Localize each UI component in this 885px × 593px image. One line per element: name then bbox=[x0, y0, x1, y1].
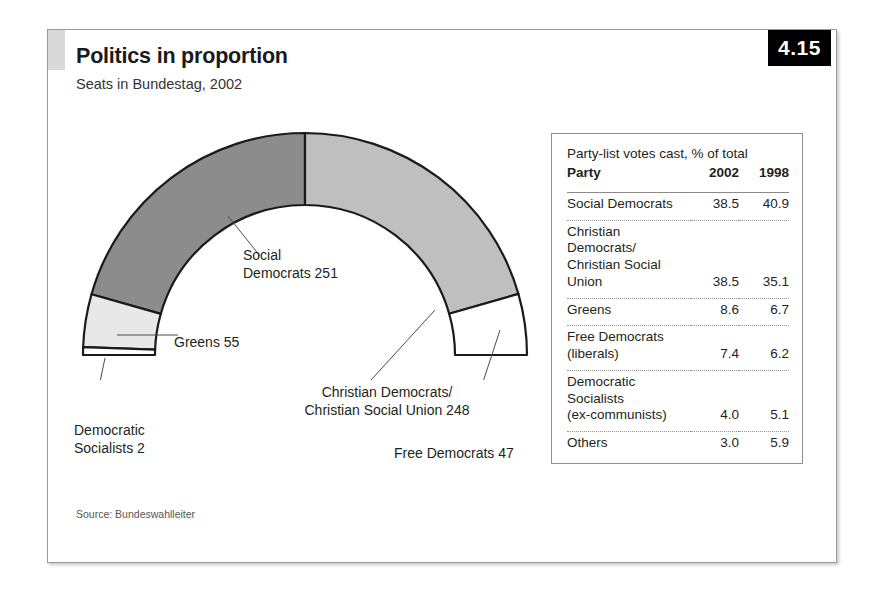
cell-2002: 3.0 bbox=[691, 432, 739, 455]
cell-1998: 35.1 bbox=[739, 220, 789, 293]
cell-2002: 38.5 bbox=[691, 220, 739, 293]
slice-social-democrats bbox=[92, 133, 305, 314]
cell-party: Greens bbox=[567, 298, 691, 321]
leader-line-cdu bbox=[371, 310, 435, 380]
cell-party: Free Democrats (liberals) bbox=[567, 326, 691, 366]
cell-party: Social Democrats bbox=[567, 193, 691, 216]
page-subtitle: Seats in Bundestag, 2002 bbox=[76, 76, 242, 92]
figure-number-badge: 4.15 bbox=[768, 30, 831, 66]
table-row: Greens 8.6 6.7 bbox=[567, 298, 789, 321]
leader-line-pds bbox=[92, 358, 105, 380]
cell-2002: 4.0 bbox=[691, 370, 739, 427]
cell-party: Christian Democrats/ Christian Social Un… bbox=[567, 220, 691, 293]
col-1998: 1998 bbox=[739, 165, 789, 185]
table-header-row: Party 2002 1998 bbox=[567, 165, 789, 185]
label-greens: Greens 55 bbox=[174, 333, 239, 351]
cell-2002: 7.4 bbox=[691, 326, 739, 366]
label-social-democrats: Social Democrats 251 bbox=[243, 246, 338, 283]
table-caption: Party-list votes cast, % of total bbox=[567, 146, 789, 161]
cell-party: Democratic Socialists (ex-communists) bbox=[567, 370, 691, 427]
table-row: Free Democrats (liberals) 7.4 6.2 bbox=[567, 326, 789, 366]
label-democratic-socialists: Democratic Socialists 2 bbox=[74, 421, 145, 458]
table-row: Democratic Socialists (ex-communists) 4.… bbox=[567, 370, 789, 427]
table-row: Others 3.0 5.9 bbox=[567, 432, 789, 455]
cell-party: Others bbox=[567, 432, 691, 455]
cell-2002: 8.6 bbox=[691, 298, 739, 321]
cell-1998: 6.2 bbox=[739, 326, 789, 366]
page-title: Politics in proportion bbox=[76, 44, 288, 69]
label-christian-democrats: Christian Democrats/ Christian Social Un… bbox=[262, 383, 512, 420]
table-header-rule bbox=[567, 185, 789, 193]
data-table: Party-list votes cast, % of total Party … bbox=[567, 146, 789, 455]
corner-accent bbox=[48, 30, 65, 70]
figure-root: 4.15 Politics in proportion Seats in Bun… bbox=[0, 0, 885, 593]
source-note: Source: Bundeswahlleiter bbox=[76, 508, 195, 520]
col-2002: 2002 bbox=[691, 165, 739, 185]
cell-1998: 6.7 bbox=[739, 298, 789, 321]
col-party: Party bbox=[567, 165, 691, 185]
table-row: Christian Democrats/ Christian Social Un… bbox=[567, 220, 789, 293]
slice-democratic-socialists bbox=[83, 347, 155, 355]
cell-1998: 5.1 bbox=[739, 370, 789, 427]
cell-1998: 5.9 bbox=[739, 432, 789, 455]
cell-1998: 40.9 bbox=[739, 193, 789, 216]
table-row: Social Democrats 38.5 40.9 bbox=[567, 193, 789, 216]
label-free-democrats: Free Democrats 47 bbox=[394, 444, 514, 462]
slice-christian-democrats bbox=[305, 133, 518, 314]
cell-2002: 38.5 bbox=[691, 193, 739, 216]
